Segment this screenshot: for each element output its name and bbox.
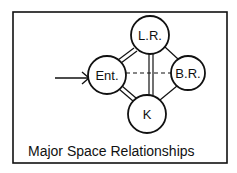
node-kitchen: K [128, 95, 166, 133]
node-label-br: B.R. [175, 66, 200, 81]
node-bedroom: B.R. [171, 56, 205, 90]
edge-lr-br [165, 47, 178, 59]
node-label-lr: L.R. [138, 28, 162, 43]
space-relationship-diagram: L.R. Ent. B.R. K Major Space Relationshi… [0, 0, 237, 173]
node-entry: Ent. [88, 56, 126, 94]
node-label-ent: Ent. [95, 68, 118, 83]
edge-lr-k [149, 54, 153, 95]
diagram-caption: Major Space Relationships [28, 143, 195, 159]
node-living-room: L.R. [131, 16, 169, 54]
node-label-k: K [143, 107, 152, 122]
entry-arrow [55, 72, 89, 84]
edge-k-br [160, 86, 177, 100]
